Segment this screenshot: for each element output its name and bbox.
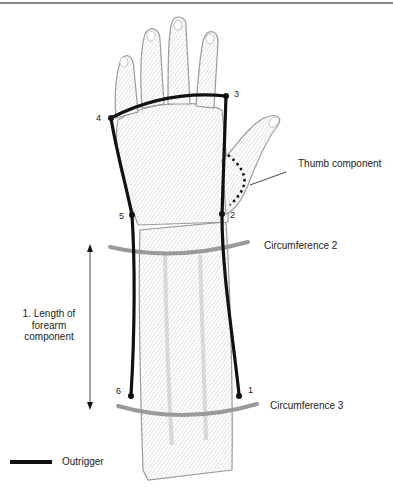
outrigger-legend-label: Outrigger [62, 456, 104, 467]
point-4-label: 4 [96, 113, 101, 123]
thumb-leader-line [250, 172, 286, 185]
circumference-2-label: Circumference 2 [264, 240, 337, 252]
point-6-label: 6 [116, 386, 121, 396]
point-5-label: 5 [119, 211, 124, 221]
point-2-label: 2 [230, 210, 235, 220]
point-1-label: 1 [248, 385, 253, 395]
thumb-component-label: Thumb component [298, 158, 381, 170]
circumference-3-label: Circumference 3 [270, 400, 343, 412]
length-of-forearm-label: 1. Length of forearm component [10, 308, 88, 343]
point-3-label: 3 [234, 89, 239, 99]
outrigger-legend-swatch [10, 460, 52, 464]
legend: Outrigger [10, 456, 104, 467]
